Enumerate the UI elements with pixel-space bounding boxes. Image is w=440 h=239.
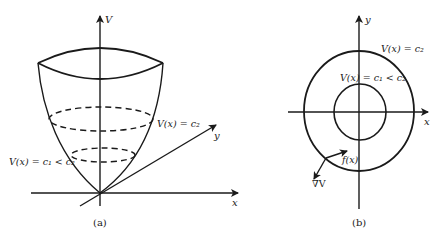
lyapunov-figure: V y x V(x) = c₂ V(x) = c₁ < c₂ (a) y x V… bbox=[0, 0, 440, 239]
panel-b-x-label: x bbox=[424, 116, 430, 127]
panel-a-level-c1-label: V(x) = c₁ < c₂ bbox=[9, 156, 75, 167]
panel-a: V y x V(x) = c₂ V(x) = c₁ < c₂ (a) bbox=[9, 14, 238, 228]
paraboloid-right-wall bbox=[100, 63, 163, 193]
panel-a-caption: (a) bbox=[93, 217, 107, 228]
paraboloid-left-wall bbox=[38, 63, 100, 193]
panel-b-level-c1-label: V(x) = c₁ < c₂ bbox=[340, 72, 406, 83]
vector-field-label: f(x) bbox=[341, 154, 359, 165]
panel-b-level-c2-label: V(x) = c₂ bbox=[381, 43, 424, 54]
panel-b-caption: (b) bbox=[352, 217, 366, 228]
level-set-c1-ellipse bbox=[71, 148, 135, 162]
panel-a-x-label: x bbox=[232, 197, 238, 208]
gradient-label: ∇V bbox=[312, 178, 326, 189]
panel-a-level-c2-label: V(x) = c₂ bbox=[157, 118, 200, 129]
level-set-c2-ellipse bbox=[49, 107, 153, 131]
panel-b: y x V(x) = c₂ V(x) = c₁ < c₂ f(x) ∇V (b) bbox=[288, 14, 430, 228]
panel-a-v-label: V bbox=[105, 14, 114, 25]
gradient-arrow bbox=[314, 158, 326, 179]
panel-b-y-label: y bbox=[364, 14, 371, 25]
panel-a-y-label: y bbox=[213, 130, 220, 141]
